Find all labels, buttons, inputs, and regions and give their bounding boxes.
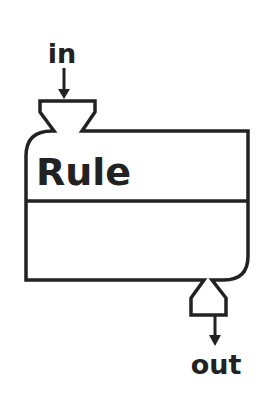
rule-diagram: in Rule out — [0, 0, 274, 409]
rule-block-outline — [26, 101, 248, 315]
output-label: out — [191, 349, 242, 380]
rule-block-title: Rule — [36, 150, 131, 194]
input-arrow-icon — [58, 68, 70, 99]
output-arrow-icon — [209, 316, 221, 346]
input-label: in — [48, 38, 76, 69]
